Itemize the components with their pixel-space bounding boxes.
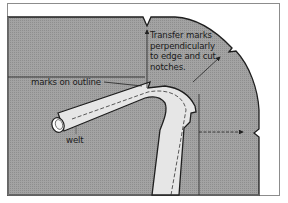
welt-diagram: Transfer marks perpendicularly to edge a…: [0, 0, 288, 203]
diagram-canvas: [0, 0, 288, 203]
marks-on-outline-label: marks on outline: [31, 77, 101, 88]
welt-label: welt: [66, 135, 83, 146]
transfer-note-label: Transfer marks perpendicularly to edge a…: [150, 30, 216, 72]
fabric-piece: [8, 17, 259, 195]
